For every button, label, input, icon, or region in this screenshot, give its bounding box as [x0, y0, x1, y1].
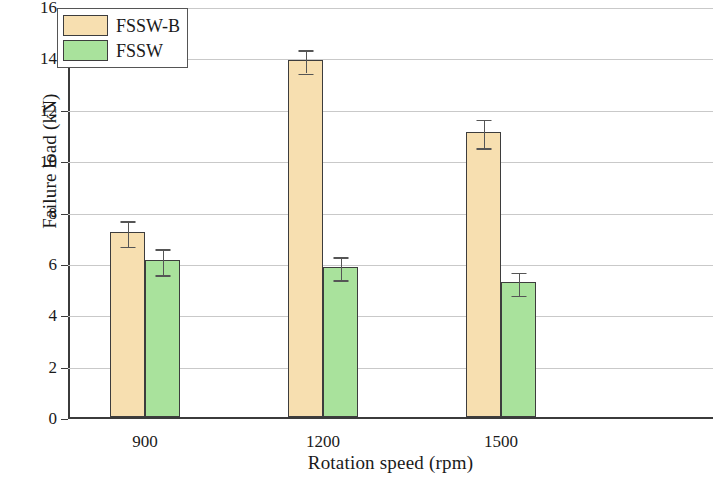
error-bar-line [306, 50, 307, 73]
gridline [68, 162, 713, 163]
error-bar-cap-upper [511, 273, 526, 275]
bar-fssw-b-1200 [288, 60, 323, 417]
y-tick-label: 16 [40, 0, 57, 18]
x-tick-label: 1500 [484, 432, 518, 452]
legend-item-1: FSSW [63, 38, 187, 63]
legend-swatch-icon-fssw-b [63, 15, 108, 36]
x-axis-title: Rotation speed (rpm) [68, 452, 713, 474]
error-bar-line [519, 273, 520, 296]
error-bar-cap-lower [333, 280, 348, 282]
x-tick-label: 900 [132, 432, 158, 452]
y-tick-label: 14 [40, 49, 57, 69]
y-tick [61, 316, 68, 317]
gridline [68, 214, 713, 215]
gridline [68, 111, 713, 112]
error-bar-line [128, 221, 129, 247]
error-bar-cap-lower [511, 296, 526, 298]
bar-fssw-1200 [323, 267, 358, 417]
legend-item-0: FSSW-B [63, 13, 187, 38]
y-tick-label: 8 [49, 204, 58, 224]
bar-fssw-b-900 [110, 232, 145, 417]
legend-label-1: FSSW [116, 42, 163, 60]
y-tick [61, 265, 68, 266]
chart-figure: Failure load (kN) 0246810121416 90012001… [0, 0, 713, 484]
error-bar-cap-upper [120, 221, 135, 223]
legend-label-0: FSSW-B [116, 17, 180, 35]
y-tick-label: 4 [49, 306, 58, 326]
y-tick-label: 0 [49, 409, 58, 429]
y-tick-label: 2 [49, 358, 58, 378]
error-bar-cap-lower [476, 148, 491, 150]
y-tick [61, 162, 68, 163]
error-bar-line [341, 257, 342, 280]
plot-area: 0246810121416 90012001500 [68, 8, 713, 419]
y-tick-label: 12 [40, 101, 57, 121]
legend-swatch-icon-fssw [63, 40, 108, 61]
error-bar-cap-lower [120, 247, 135, 249]
error-bar-line [163, 249, 164, 275]
bar-fssw-900 [145, 260, 180, 417]
y-tick [61, 214, 68, 215]
y-tick-label: 10 [40, 152, 57, 172]
x-tick-label: 1200 [306, 432, 340, 452]
bar-fssw-b-1500 [466, 132, 501, 417]
error-bar-cap-upper [476, 120, 491, 122]
error-bar-cap-lower [155, 275, 170, 277]
error-bar-cap-upper [333, 257, 348, 259]
error-bar-cap-upper [298, 50, 313, 52]
y-tick [61, 368, 68, 369]
y-tick-label: 6 [49, 255, 58, 275]
y-tick [61, 419, 68, 420]
error-bar-cap-upper [155, 249, 170, 251]
error-bar-cap-lower [298, 74, 313, 76]
error-bar-line [484, 120, 485, 148]
x-axis-line [68, 417, 713, 419]
legend: FSSW-B FSSW [57, 8, 188, 68]
y-tick [61, 111, 68, 112]
bar-fssw-1500 [501, 282, 536, 417]
